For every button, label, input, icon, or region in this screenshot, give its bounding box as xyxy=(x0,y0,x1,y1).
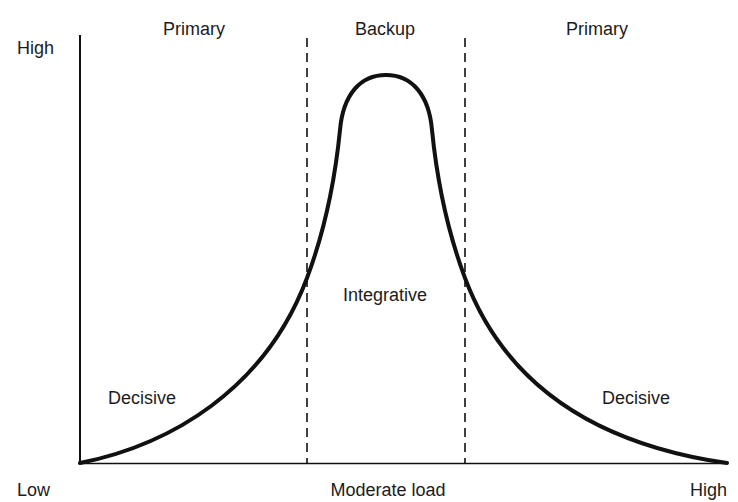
diagram-canvas xyxy=(0,0,738,502)
x-axis-moderate-load-label: Moderate load xyxy=(330,480,445,500)
x-axis-high-label: High xyxy=(690,480,727,500)
region-label-integrative: Integrative xyxy=(343,285,427,305)
x-axis-low-label: Low xyxy=(17,480,50,500)
region-label-primary-right: Primary xyxy=(566,19,628,39)
region-label-decisive-right: Decisive xyxy=(602,388,670,408)
region-label-primary-left: Primary xyxy=(163,19,225,39)
region-label-backup: Backup xyxy=(355,19,415,39)
region-label-decisive-left: Decisive xyxy=(108,388,176,408)
load-strategy-diagram: High Primary Backup Primary Integrative … xyxy=(0,0,738,502)
y-axis-high-label: High xyxy=(17,38,54,58)
